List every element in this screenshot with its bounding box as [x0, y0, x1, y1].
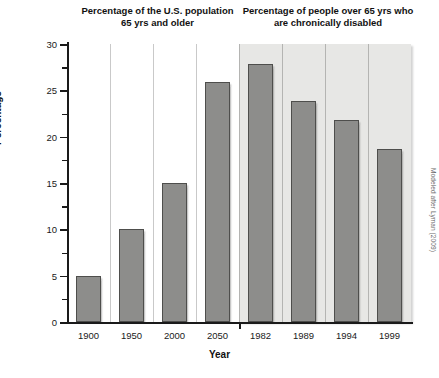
y-tick-label: 0 — [33, 317, 57, 328]
chart-figure: Percentage of the U.S. population 65 yrs… — [0, 0, 439, 378]
y-tick-minor — [62, 67, 67, 69]
y-tick-label: 10 — [33, 224, 57, 235]
category-separator — [196, 44, 197, 322]
bar-2050 — [205, 82, 231, 322]
y-tick-label: 20 — [33, 131, 57, 142]
y-tick-major — [60, 229, 67, 231]
y-tick-major — [60, 322, 67, 324]
x-tick-label-1999: 1999 — [365, 330, 415, 341]
x-axis-label: Year — [0, 349, 439, 360]
y-axis-label: Percentage — [0, 91, 3, 145]
y-tick-minor — [62, 253, 67, 255]
bar-1900 — [76, 276, 102, 322]
figure-credit: Modeled after Lyman (2009) — [430, 168, 437, 252]
y-axis-line — [67, 42, 69, 324]
y-tick-minor — [62, 206, 67, 208]
right-panel-title: Percentage of people over 65 yrs who are… — [238, 5, 418, 29]
y-tick-major — [60, 276, 67, 278]
category-separator — [239, 44, 240, 322]
category-separator — [368, 44, 369, 322]
category-separator — [282, 44, 283, 322]
bar-1994 — [334, 120, 360, 322]
bar-2000 — [162, 183, 188, 322]
y-tick-minor — [62, 299, 67, 301]
y-tick-major — [60, 90, 67, 92]
bar-1950 — [119, 229, 145, 322]
category-separator — [110, 44, 111, 322]
y-tick-major — [60, 137, 67, 139]
y-tick-label: 30 — [33, 39, 57, 50]
category-separator — [325, 44, 326, 322]
bar-1982 — [248, 64, 274, 322]
y-tick-major — [60, 183, 67, 185]
left-panel-title: Percentage of the U.S. population 65 yrs… — [80, 5, 235, 29]
y-tick-major — [60, 44, 67, 46]
category-separator — [153, 44, 154, 322]
y-tick-minor — [62, 114, 67, 116]
y-tick-minor — [62, 160, 67, 162]
y-tick-label: 5 — [33, 270, 57, 281]
panel-boundary-tick — [239, 322, 241, 329]
y-tick-label: 25 — [33, 85, 57, 96]
plot-area — [67, 44, 411, 322]
bar-1999 — [377, 149, 403, 322]
y-tick-label: 15 — [33, 178, 57, 189]
bar-1989 — [291, 101, 317, 322]
